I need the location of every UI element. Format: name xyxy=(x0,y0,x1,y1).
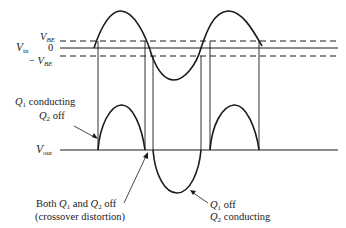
arrow-crossover xyxy=(124,154,147,203)
label-zero: 0 xyxy=(48,42,53,53)
label-vin: Vin xyxy=(16,42,28,57)
q2-negative-lobe xyxy=(153,150,201,193)
label-vout: Vout xyxy=(36,144,52,159)
q1-positive-lobe-1 xyxy=(98,105,145,150)
arrow-q2-conducting xyxy=(192,192,208,203)
annotation-q2-off: Q2 off xyxy=(39,110,65,125)
annotation-crossover-distortion: (crossover distortion) xyxy=(35,211,125,222)
annotation-q1-conducting: Q1 conducting xyxy=(15,96,75,111)
arrowhead-icon xyxy=(92,133,98,139)
q1-positive-lobe-2 xyxy=(210,105,259,150)
label-vbe-negative: − VBE xyxy=(29,55,53,70)
annotation-q2-conducting: Q2 conducting xyxy=(210,211,270,226)
input-sine-wave xyxy=(94,11,262,80)
arrowhead-icon xyxy=(143,152,148,159)
